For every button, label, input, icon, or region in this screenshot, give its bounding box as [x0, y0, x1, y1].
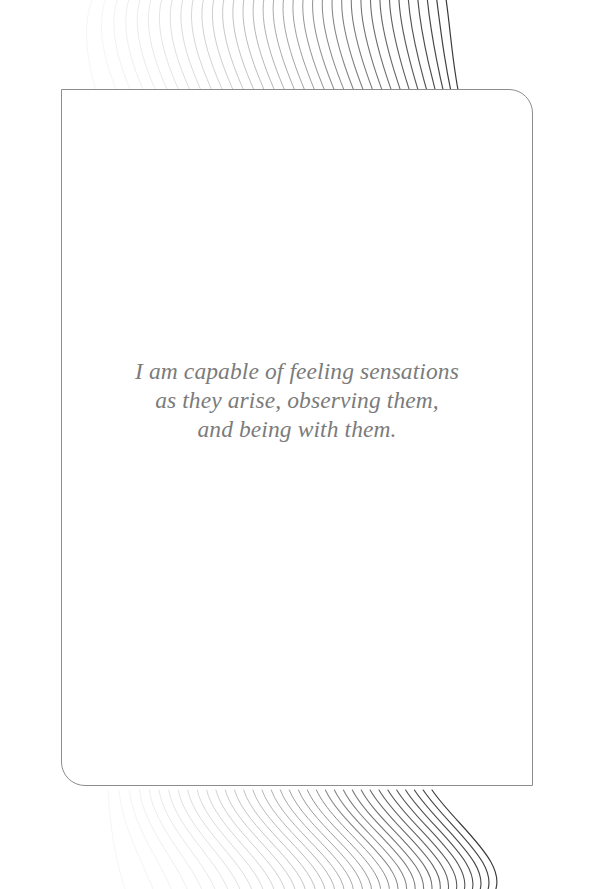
quote-line-2: as they arise, observing them, [62, 386, 532, 415]
quote-card: I am capable of feeling sensations as th… [61, 89, 533, 786]
quote-line-1: I am capable of feeling sensations [62, 357, 532, 386]
quote-line-3: and being with them. [62, 415, 532, 444]
affirmation-quote: I am capable of feeling sensations as th… [62, 357, 532, 444]
quote-card-body: I am capable of feeling sensations as th… [62, 90, 532, 785]
affirmation-card-canvas: I am capable of feeling sensations as th… [0, 0, 589, 889]
